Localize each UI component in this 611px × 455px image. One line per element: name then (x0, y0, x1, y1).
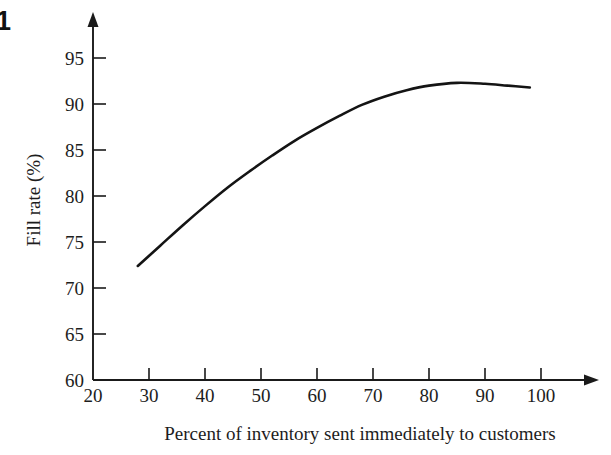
y-tick-label: 75 (65, 232, 84, 253)
x-tick-label: 30 (140, 385, 159, 406)
x-tick-label: 100 (527, 385, 556, 406)
y-tick-label: 65 (65, 324, 84, 345)
x-axis-tick-labels: 2030405060708090100 (84, 385, 556, 406)
x-axis-ticks (149, 368, 541, 380)
x-axis-title: Percent of inventory sent immediately to… (164, 423, 556, 444)
y-tick-label: 95 (65, 48, 84, 69)
y-tick-label: 70 (65, 278, 84, 299)
y-tick-label: 80 (65, 186, 84, 207)
y-axis-ticks (93, 58, 106, 334)
y-tick-label: 90 (65, 94, 84, 115)
x-tick-label: 70 (364, 385, 383, 406)
x-tick-label: 20 (84, 385, 103, 406)
y-axis-tick-labels: 6065707580859095 (65, 48, 84, 391)
y-tick-label: 85 (65, 140, 84, 161)
figure-container: 1 6065707580859095 2030405060708090100 P… (0, 0, 611, 455)
y-tick-label: 60 (65, 370, 84, 391)
x-tick-label: 80 (420, 385, 439, 406)
y-axis-arrowhead-icon (88, 12, 99, 27)
x-tick-label: 50 (252, 385, 271, 406)
data-series-curve (138, 83, 530, 266)
x-axis-arrowhead-icon (584, 375, 599, 386)
fill-rate-line-chart: 6065707580859095 2030405060708090100 Per… (0, 0, 611, 455)
x-tick-label: 40 (196, 385, 215, 406)
x-tick-label: 60 (308, 385, 327, 406)
y-axis-title: Fill rate (%) (23, 154, 45, 247)
x-tick-label: 90 (476, 385, 495, 406)
